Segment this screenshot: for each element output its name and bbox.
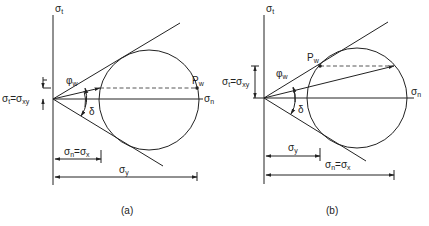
mohr-circle bbox=[99, 50, 199, 150]
sigma-n-eq-sigma-x-label: σn=σx bbox=[325, 159, 351, 171]
sigma-n-axis-label: σn bbox=[204, 93, 214, 105]
sigma-y-label: σy bbox=[119, 164, 129, 177]
lower-failure-envelope bbox=[264, 98, 366, 161]
upper-failure-envelope bbox=[264, 22, 388, 98]
mohr-circle-diagram: σt σn Pw φw δ σt=σxy σn=σx σy (a) bbox=[0, 0, 429, 226]
sigma-t-axis-label: σt bbox=[266, 3, 274, 15]
delta-label: δ bbox=[298, 104, 304, 115]
stress-vector bbox=[53, 88, 100, 99]
sigma-t-eq-sigma-xy-label: σt=σxy bbox=[2, 93, 30, 106]
sigma-t-eq-sigma-xy-label: σt=σxy bbox=[222, 76, 250, 89]
point-pw bbox=[318, 64, 322, 68]
caption-b: (b) bbox=[326, 205, 338, 216]
pw-label: Pw bbox=[307, 52, 320, 64]
phi-w-label: φw bbox=[66, 75, 78, 87]
stress-vector bbox=[264, 66, 394, 98]
panel-a: σt σn Pw φw δ σt=σxy σn=σx σy (a) bbox=[2, 3, 214, 216]
sigma-n-eq-sigma-x-label: σn=σx bbox=[64, 146, 90, 158]
sigma-n-axis-label: σn bbox=[411, 86, 421, 98]
caption-a: (a) bbox=[121, 205, 133, 216]
panel-b: σt σn Pw φw δ σt=σxy σy σn=σx (b) bbox=[222, 3, 421, 216]
delta-label: δ bbox=[89, 106, 95, 117]
sigma-t-axis-label: σt bbox=[55, 3, 63, 15]
pw-label: Pw bbox=[192, 75, 205, 87]
phi-w-label: φw bbox=[276, 68, 288, 80]
sigma-y-label: σy bbox=[288, 142, 298, 155]
